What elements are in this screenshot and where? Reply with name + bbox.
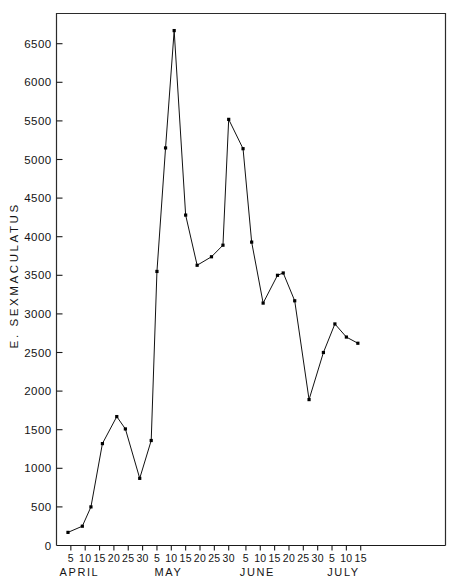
x-axis-month-label: JUNE (240, 566, 275, 578)
data-point-marker (307, 398, 310, 401)
x-tick-label: 10 (79, 552, 91, 564)
x-tick-label: 15 (180, 552, 192, 564)
y-axis-title-text: E. SEXMACULATUS (8, 202, 20, 348)
x-axis-month-labels: APRILMAYJUNEJULY (60, 566, 360, 578)
data-point-marker (276, 274, 279, 277)
data-point-marker (115, 415, 118, 418)
data-point-marker (89, 505, 92, 508)
y-tick-label: 3500 (24, 269, 51, 281)
y-tick-label: 4000 (24, 231, 51, 243)
y-tick-label: 2000 (24, 385, 51, 397)
data-point-marker (241, 147, 244, 150)
x-axis-ticks: 51015202530510152025305101520253051015 (68, 546, 367, 564)
y-tick-label: 2500 (24, 347, 51, 359)
data-point-marker (173, 29, 176, 32)
x-axis-month-label: APRIL (60, 566, 100, 578)
data-point-marker (138, 477, 141, 480)
x-tick-label: 25 (297, 552, 309, 564)
x-tick-label: 5 (154, 552, 160, 564)
x-tick-label: 20 (283, 552, 295, 564)
x-tick-label: 25 (208, 552, 220, 564)
x-tick-label: 5 (243, 552, 249, 564)
plot-frame (57, 14, 446, 546)
x-tick-label: 25 (122, 552, 134, 564)
y-tick-label: 5500 (24, 115, 51, 127)
x-tick-label: 15 (355, 552, 367, 564)
data-point-marker (81, 525, 84, 528)
x-tick-label: 15 (268, 552, 280, 564)
data-point-marker (282, 271, 285, 274)
line-chart-svg: 0500100015002000250030003500400045005000… (0, 0, 459, 587)
x-tick-label: 10 (340, 552, 352, 564)
data-point-marker (184, 213, 187, 216)
y-tick-label: 0 (45, 540, 52, 552)
data-point-marker (196, 264, 199, 267)
data-point-marker (322, 351, 325, 354)
x-tick-label: 30 (223, 552, 235, 564)
x-tick-label: 30 (312, 552, 324, 564)
x-axis-month-label: JULY (327, 566, 359, 578)
x-axis-month-label: MAY (155, 566, 183, 578)
x-tick-label: 5 (68, 552, 74, 564)
y-tick-label: 6000 (24, 76, 51, 88)
y-tick-label: 5000 (24, 154, 51, 166)
x-tick-label: 20 (194, 552, 206, 564)
data-point-marker (155, 270, 158, 273)
data-point-marker (164, 146, 167, 149)
series-polyline (68, 31, 358, 533)
y-tick-label: 3000 (24, 308, 51, 320)
data-point-marker (124, 427, 127, 430)
data-point-marker (293, 299, 296, 302)
data-point-marker (150, 439, 153, 442)
y-tick-label: 6500 (24, 38, 51, 50)
data-point-marker (227, 118, 230, 121)
data-point-marker (333, 322, 336, 325)
data-point-marker (345, 335, 348, 338)
y-tick-label: 500 (31, 501, 51, 513)
data-point-marker (210, 255, 213, 258)
y-tick-label: 1000 (24, 462, 51, 474)
data-point-marker (66, 531, 69, 534)
x-tick-label: 15 (93, 552, 105, 564)
data-point-marker (221, 244, 224, 247)
data-point-marker (250, 241, 253, 244)
chart-figure: 0500100015002000250030003500400045005000… (0, 0, 459, 587)
x-tick-label: 20 (108, 552, 120, 564)
x-tick-label: 30 (136, 552, 148, 564)
data-series (66, 29, 359, 534)
x-tick-label: 10 (165, 552, 177, 564)
y-axis-title: E. SEXMACULATUS (8, 202, 20, 348)
y-tick-label: 1500 (24, 424, 51, 436)
x-tick-label: 5 (329, 552, 335, 564)
x-tick-label: 10 (254, 552, 266, 564)
y-tick-label: 4500 (24, 192, 51, 204)
data-point-marker (101, 442, 104, 445)
data-point-marker (356, 342, 359, 345)
plot-border (57, 14, 446, 546)
data-point-marker (262, 301, 265, 304)
